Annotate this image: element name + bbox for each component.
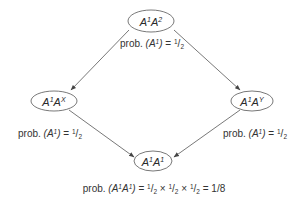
result-equals: = <box>136 183 147 194</box>
times-sign: × <box>157 183 168 194</box>
edge-label-right: prob. (A1) = 1/2 <box>223 129 287 139</box>
node-left-sup2: X <box>61 96 66 103</box>
result-label: prob. (A1A1) = 1/2 × 1/2 × 1/2 = 1/8 <box>83 184 225 194</box>
node-right-base2: A <box>252 96 259 108</box>
label-prefix: prob. <box>18 128 44 139</box>
node-bottom-base2: A <box>153 156 160 168</box>
label-var: A <box>149 38 156 49</box>
edge-label-left: prob. (A1) = 1/2 <box>18 129 82 139</box>
fraction-denominator: 2 <box>78 133 82 140</box>
fraction-half-2: 1/2 <box>168 183 178 194</box>
label-equals: = <box>163 38 174 49</box>
label-var: A <box>47 128 54 139</box>
result-prefix: prob. <box>83 183 109 194</box>
fraction-half: 1/2 <box>277 128 287 139</box>
node-top-label: A1A2 <box>140 17 163 28</box>
result-var2: A <box>122 183 129 194</box>
fraction-denominator: 2 <box>283 133 287 140</box>
fraction-half: 1/2 <box>72 128 82 139</box>
node-top-sup2: 2 <box>158 16 162 23</box>
result-value: 1/8 <box>211 183 225 194</box>
node-top-base2: A <box>151 16 158 28</box>
times-sign: × <box>178 183 189 194</box>
node-right-label: A1AY <box>240 97 263 108</box>
node-bottom-sup2: 1 <box>160 156 164 163</box>
label-prefix: prob. <box>120 38 146 49</box>
label-prefix: prob. <box>223 128 249 139</box>
fraction-denominator: 2 <box>180 43 184 50</box>
label-equals: = <box>61 128 72 139</box>
fraction-half-3: 1/2 <box>190 183 200 194</box>
fraction-half: 1/2 <box>174 38 184 49</box>
result-var1: A <box>112 183 119 194</box>
edge-label-top: prob. (A1) = 1/2 <box>120 39 184 49</box>
label-equals: = <box>266 128 277 139</box>
result-equals-2: = <box>200 183 211 194</box>
node-left-label: A1AX <box>42 97 65 108</box>
fraction-half-1: 1/2 <box>147 183 157 194</box>
node-bottom-label: A1A1 <box>142 157 165 168</box>
node-right-sup2: Y <box>259 96 264 103</box>
label-var: A <box>252 128 259 139</box>
node-left-base2: A <box>54 96 61 108</box>
